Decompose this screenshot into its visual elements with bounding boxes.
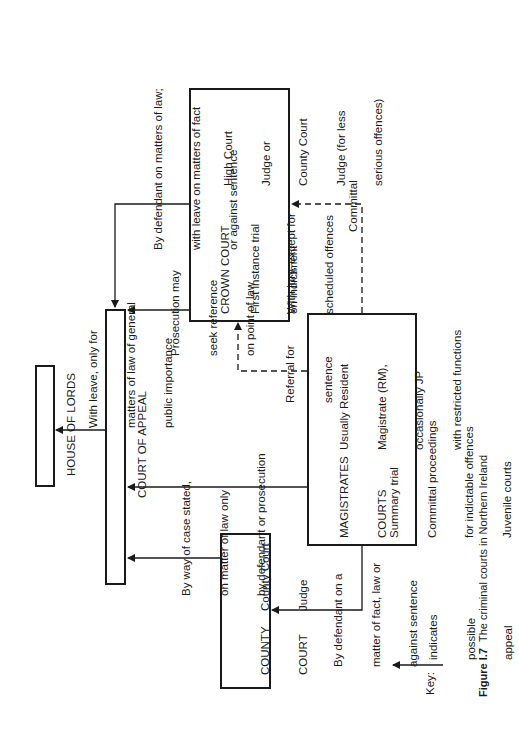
label-committal: Committal: [322, 180, 385, 232]
label-crown-defendant: By defendant on matters of law; with lea…: [127, 88, 265, 250]
figure-number: Figure I.7: [477, 648, 489, 697]
figure-caption-text: The criminal courts in Northern Ireland: [477, 455, 489, 642]
figure-caption: Figure I.7 The criminal courts in Northe…: [452, 455, 515, 697]
label-crown-prosecution: Prosecution may seek reference on point …: [144, 270, 282, 356]
label-referral: Referral for sentence: [259, 345, 359, 403]
label-county-case-stated: By way of case stated, on matter of law …: [155, 453, 293, 596]
